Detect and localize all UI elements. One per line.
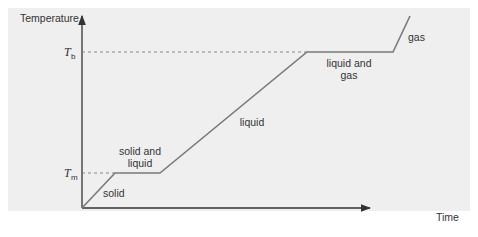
region-gas-label: gas (408, 31, 425, 43)
heating-curve-chart: Temperature Time T b T m solid solid and… (0, 0, 478, 237)
svg-text:m: m (71, 173, 78, 182)
region-liquid-gas-label-1: liquid and (327, 57, 372, 69)
svg-text:b: b (71, 52, 76, 61)
tm-label: T m (64, 166, 78, 182)
y-axis-label: Temperature (20, 12, 79, 24)
region-solid-liquid-label-1: solid and (119, 145, 161, 157)
tb-label: T b (64, 45, 76, 61)
x-axis-label: Time (436, 211, 459, 223)
region-solid-label: solid (103, 187, 125, 199)
region-solid-liquid-label-2: liquid (128, 157, 153, 169)
region-liquid-gas-label-2: gas (341, 69, 358, 81)
heating-curve (82, 16, 410, 208)
region-liquid-label: liquid (240, 116, 265, 128)
